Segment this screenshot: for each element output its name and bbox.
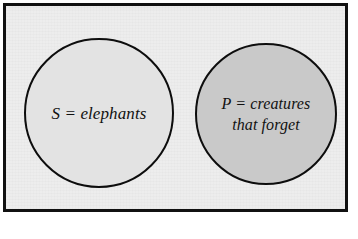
set-label-predicate: P = creatures that forget: [216, 93, 317, 135]
set-circle-subject: S = elephants: [24, 38, 174, 188]
set-label-subject-line-1: S = elephants: [52, 103, 147, 124]
universe-box: S = elephants P = creatures that forget: [3, 3, 348, 212]
set-label-subject: S = elephants: [46, 103, 153, 124]
diagram-canvas: S = elephants P = creatures that forget: [0, 0, 358, 239]
set-circle-predicate: P = creatures that forget: [195, 43, 337, 185]
set-label-predicate-line-2: that forget: [222, 114, 311, 135]
set-label-predicate-line-1: P = creatures: [222, 93, 311, 114]
